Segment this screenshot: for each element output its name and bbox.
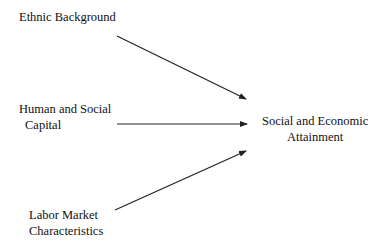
edge-labor-to-outcome — [115, 151, 246, 210]
edge-ethnic-to-outcome — [117, 36, 246, 99]
edges-layer — [0, 0, 390, 248]
